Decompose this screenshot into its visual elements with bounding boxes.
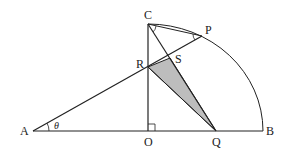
label-s: S [175,52,182,66]
geometry-diagram: A O Q B C P R S θ [0,0,287,153]
label-b: B [266,124,274,138]
angle-arc-theta [47,123,49,131]
right-angle-mark [148,124,155,131]
segment-cq [148,24,216,131]
label-o: O [144,135,153,149]
angle-mark-c [153,26,156,32]
angle-mark-p [193,34,195,40]
label-a: A [20,124,29,138]
shaded-triangle-rsq [148,58,216,131]
segment-cp [148,24,202,36]
label-p: P [205,23,212,37]
label-c: C [144,8,152,22]
label-r: R [136,57,144,71]
label-q: Q [212,135,221,149]
label-theta: θ [54,120,59,131]
